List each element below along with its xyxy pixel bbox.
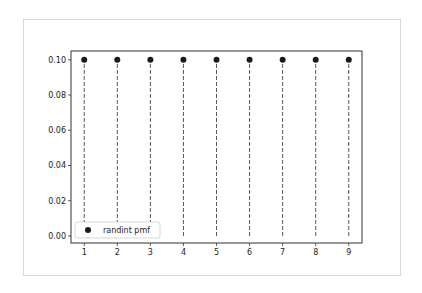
legend-label: randint pmf: [103, 226, 150, 235]
y-tick-label: 0.00: [48, 232, 66, 241]
stem-chart: 0.000.020.040.060.080.10 123456789 randi…: [0, 0, 422, 293]
y-tick-label: 0.08: [48, 91, 66, 100]
legend-marker-icon: [85, 227, 91, 233]
stem-marker: [247, 57, 253, 63]
y-tick-label: 0.04: [48, 161, 66, 170]
stem-marker: [180, 57, 186, 63]
stem-marker: [214, 57, 220, 63]
x-tick-label: 8: [313, 248, 318, 257]
x-tick-label: 3: [148, 248, 153, 257]
x-tick-label: 5: [214, 248, 219, 257]
y-tick-label: 0.02: [48, 197, 66, 206]
stem-marker: [346, 57, 352, 63]
stem-marker: [313, 57, 319, 63]
x-tick-label: 9: [346, 248, 351, 257]
stem-marker: [81, 57, 87, 63]
legend: randint pmf: [75, 222, 160, 238]
x-tick-label: 6: [247, 248, 252, 257]
x-tick-label: 2: [115, 248, 120, 257]
x-tick-label: 7: [280, 248, 285, 257]
y-tick-label: 0.06: [48, 126, 66, 135]
stem-marker: [147, 57, 153, 63]
x-axis: 123456789: [82, 243, 352, 257]
y-tick-label: 0.10: [48, 56, 66, 65]
x-tick-label: 4: [181, 248, 186, 257]
stem-marker: [280, 57, 286, 63]
stem-marker: [114, 57, 120, 63]
x-tick-label: 1: [82, 248, 87, 257]
stems: [81, 57, 352, 236]
y-axis: 0.000.020.040.060.080.10: [48, 56, 71, 241]
